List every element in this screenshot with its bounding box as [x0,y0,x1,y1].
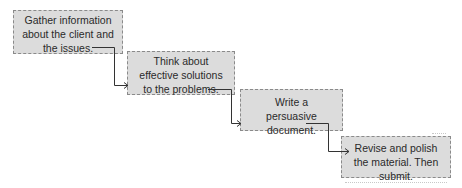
step-box-gather-information: Gather information about the client and … [13,10,123,54]
step-box-write-document: Write a persuasive document. [240,89,343,131]
step-text: Gather information about the client and … [20,13,116,55]
step-box-think-solutions: Think about effective solutions to the p… [127,51,235,95]
step-text: Write a persuasive document. [252,92,332,137]
step-text: Revise and polish the material. Then sub… [346,141,446,183]
flowchart-canvas: Gather information about the client and … [0,0,462,188]
decorative-dotted-line [345,182,447,183]
decorative-dotted-line [432,133,446,134]
step-text: Think about effective solutions to the p… [136,54,226,96]
step-box-revise-submit: Revise and polish the material. Then sub… [341,136,451,178]
